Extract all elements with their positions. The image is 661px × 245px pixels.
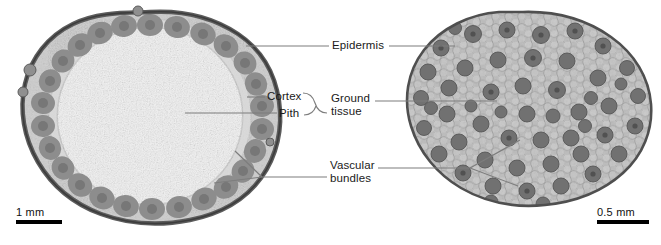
- specimen-monocot-stem: [395, 8, 661, 223]
- scalebar-left-bar: [16, 220, 62, 224]
- label-pith: Pith: [279, 107, 299, 120]
- label-cortex-text: Cortex: [267, 90, 301, 102]
- figure-root: Epidermis Cortex Pith Ground tissue Vasc…: [0, 0, 661, 245]
- label-ground-tissue-line1: Ground: [331, 92, 381, 105]
- scalebar-right-bar: [597, 220, 649, 224]
- scalebar-left-text: 1 mm: [16, 206, 62, 218]
- label-cortex: Cortex: [267, 90, 301, 103]
- label-vascular-bundles: Vascular bundles: [330, 159, 386, 184]
- label-vascular-bundles-line2: bundles: [330, 172, 386, 185]
- scalebar-right-text: 0.5 mm: [597, 206, 649, 218]
- scalebar-right: 0.5 mm: [597, 206, 649, 224]
- label-pith-text: Pith: [279, 107, 299, 119]
- label-epidermis-text: Epidermis: [332, 39, 384, 51]
- leader-brace-bottom: [304, 106, 316, 115]
- leader-brace-top: [303, 93, 327, 113]
- label-vascular-bundles-line1: Vascular: [330, 159, 386, 172]
- label-ground-tissue: Ground tissue: [331, 92, 381, 117]
- label-ground-tissue-line2: tissue: [331, 105, 381, 118]
- label-epidermis: Epidermis: [332, 39, 384, 52]
- scalebar-left: 1 mm: [16, 206, 62, 224]
- monocot-stem-image: [395, 8, 661, 223]
